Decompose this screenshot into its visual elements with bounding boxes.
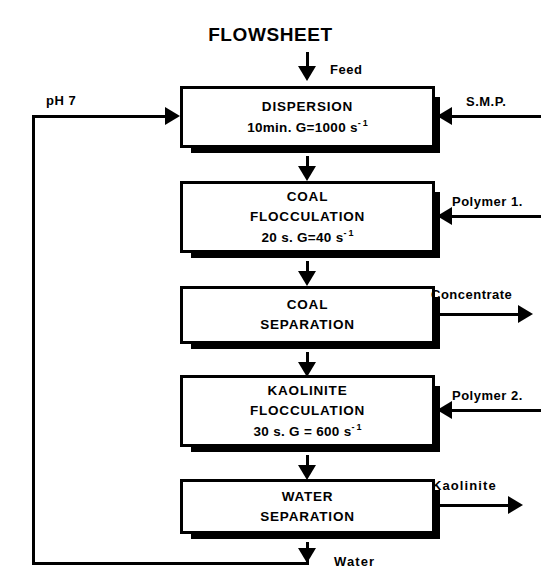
box-title-coal-sep-1: COAL xyxy=(287,295,328,315)
stream-label-water: Water xyxy=(334,554,375,569)
superscript-minus: - xyxy=(351,422,354,432)
smp-inlet-line xyxy=(452,115,541,118)
concentrate-outlet-arrowhead xyxy=(518,305,533,323)
box-title-dispersion: DISPERSION xyxy=(262,97,353,117)
box-params-coal-flocculation-superscript: -1 xyxy=(344,228,354,238)
water-recycle-bottom-line xyxy=(32,562,309,565)
polymer2-inlet-line xyxy=(452,409,541,412)
page-title: FLOWSHEET xyxy=(0,24,541,46)
process-box-coal-flocculation[interactable]: COAL FLOCCULATION 20 s. G=40 s-1 xyxy=(180,181,435,253)
box-title-water-sep: SEPARATION xyxy=(260,507,355,527)
box-title-kaolinite-flocculation: FLOCCULATION xyxy=(250,401,365,421)
feed-inlet-arrowhead xyxy=(298,66,316,81)
box-params-dispersion-text: 10min. G=1000 s xyxy=(247,119,358,134)
connector-arrowhead-4 xyxy=(298,465,316,480)
stream-label-kaolinite: Kaolinite xyxy=(432,478,497,493)
process-box-kaolinite-flocculation[interactable]: KAOLINITE FLOCCULATION 30 s. G = 600 s-1 xyxy=(180,375,435,447)
process-box-coal-separation[interactable]: COAL SEPARATION xyxy=(180,286,435,344)
ph-inlet-arrowhead xyxy=(165,107,180,125)
box-title-water: WATER xyxy=(282,487,334,507)
box-params-coal-flocculation-text: 20 s. G=40 s xyxy=(261,229,343,244)
stream-label-polymer2: Polymer 2. xyxy=(452,388,523,403)
superscript-minus: - xyxy=(358,118,361,128)
connector-arrowhead-2 xyxy=(298,271,316,286)
superscript-one: 1 xyxy=(356,422,361,432)
box-title-flocculation: FLOCCULATION xyxy=(250,207,365,227)
box-params-dispersion-superscript: -1 xyxy=(358,118,368,128)
superscript-minus: - xyxy=(344,228,347,238)
polymer1-inlet-line xyxy=(452,215,541,218)
box-title-coal: COAL xyxy=(287,187,328,207)
connector-arrowhead-1 xyxy=(298,166,316,181)
stream-label-ph: pH 7 xyxy=(46,93,76,108)
box-title-kaolinite: KAOLINITE xyxy=(268,381,348,401)
box-params-kaolinite-flocculation-text: 30 s. G = 600 s xyxy=(254,423,352,438)
water-recycle-left-line xyxy=(32,115,35,565)
box-title-coal-sep-2: SEPARATION xyxy=(260,315,355,335)
box-params-kaolinite-flocculation-superscript: -1 xyxy=(351,422,361,432)
stream-label-concentrate: Concentrate xyxy=(431,287,512,302)
stream-label-polymer1: Polymer 1. xyxy=(452,194,523,209)
superscript-one: 1 xyxy=(349,228,354,238)
water-outlet-arrowhead xyxy=(298,548,316,563)
box-params-coal-flocculation: 20 s. G=40 s-1 xyxy=(261,227,353,247)
ph-inlet-line xyxy=(32,115,167,118)
flowsheet-diagram: FLOWSHEET Feed DISPERSION 10min. G=1000 … xyxy=(0,0,541,582)
box-params-kaolinite-flocculation: 30 s. G = 600 s-1 xyxy=(254,421,362,441)
stream-label-smp: S.M.P. xyxy=(466,94,506,109)
stream-label-feed: Feed xyxy=(330,62,362,77)
process-box-water-separation[interactable]: WATER SEPARATION xyxy=(180,479,435,534)
kaolinite-outlet-line xyxy=(435,504,510,507)
superscript-one: 1 xyxy=(363,118,368,128)
box-params-dispersion: 10min. G=1000 s-1 xyxy=(247,117,368,137)
process-box-dispersion[interactable]: DISPERSION 10min. G=1000 s-1 xyxy=(180,86,435,148)
concentrate-outlet-line xyxy=(435,313,520,316)
kaolinite-outlet-arrowhead xyxy=(508,496,523,514)
